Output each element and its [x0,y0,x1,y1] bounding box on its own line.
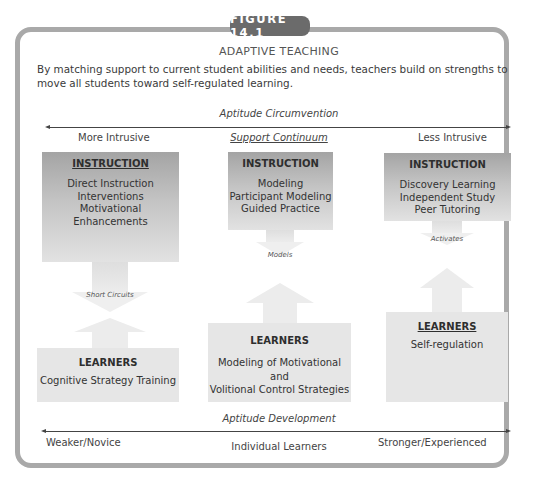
top-axis-double-arrow-icon [48,127,508,128]
connector-label-2: Models [230,251,330,259]
instruction-heading: INSTRUCTION [384,159,511,170]
learners-box-3: LEARNERS Self-regulation [386,312,508,402]
learners-box-1: LEARNERS Cognitive Strategy Training [37,348,179,402]
instruction-item: Motivational Enhancements [42,203,179,228]
up-arrow-stem-2 [263,303,297,323]
instruction-item: Direct Instruction [42,178,179,191]
instruction-item: Peer Tutoring [384,204,511,217]
learners-item: Modeling of Motivational and [208,356,351,383]
instruction-item: Guided Practice [228,203,333,216]
down-arrow-stem-1 [92,262,128,292]
bottom-axis-double-arrow-icon [44,431,508,432]
connector-label-1: Short Circuits [60,291,160,299]
figure-description: By matching support to current student a… [37,62,517,90]
instruction-box-2: INSTRUCTION Modeling Participant Modelin… [228,152,333,230]
instruction-item: Modeling [228,178,333,191]
top-axis-right-label: Less Intrusive [418,132,487,143]
instruction-item: Discovery Learning [384,179,511,192]
instruction-box-3: INSTRUCTION Discovery Learning Independe… [384,153,511,221]
bottom-axis-right-label: Stronger/Experienced [378,437,487,448]
instruction-item: Interventions [42,191,179,204]
learners-item: Self-regulation [386,338,508,352]
up-arrow-icon [420,268,474,288]
connector-label-3: Activates [397,235,497,243]
learners-box-2: LEARNERS Modeling of Motivational and Vo… [208,323,351,402]
learners-heading: LEARNERS [386,321,508,332]
learners-item: Cognitive Strategy Training [37,374,179,388]
up-arrow-icon [74,318,146,332]
learners-heading: LEARNERS [208,335,351,346]
figure-title: ADAPTIVE TEACHING [0,45,558,58]
figure-badge: FIGURE 14.1 [230,16,310,36]
up-arrow-stem-1 [92,332,128,348]
instruction-item: Participant Modeling [228,191,333,204]
bottom-axis-label: Aptitude Development [0,413,558,424]
instruction-item: Independent Study [384,192,511,205]
down-arrow-stem-2 [266,230,294,242]
up-arrow-stem-3 [432,288,462,312]
up-arrow-icon [246,283,314,303]
top-axis-label: Aptitude Circumvention [0,108,558,119]
instruction-heading: INSTRUCTION [42,158,179,169]
instruction-heading: INSTRUCTION [228,158,333,169]
learners-heading: LEARNERS [37,357,179,368]
instruction-box-1: INSTRUCTION Direct Instruction Intervent… [42,152,179,262]
learners-item: Volitional Control Strategies [208,383,351,397]
down-arrow-stem-3 [432,221,462,233]
